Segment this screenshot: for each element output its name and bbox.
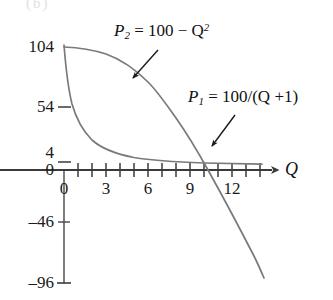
y-tick-label-0: 0 — [6, 161, 54, 178]
y-axis-ticks — [58, 107, 71, 162]
y-tick-label-104: 104 — [6, 38, 54, 55]
y-tick-label-54: 54 — [6, 98, 54, 115]
curve-label-p1-body: = 100/(Q +1) — [204, 87, 298, 106]
x-tick-label-12: 12 — [220, 180, 244, 197]
y-tick-label-neg96: –96 — [0, 274, 54, 291]
x-tick-label-0: 0 — [52, 180, 76, 197]
y-tick-label-4: 4 — [6, 144, 54, 161]
curve-label-p1-prefix: P — [188, 87, 198, 106]
x-tick-label-9: 9 — [178, 180, 202, 197]
x-tick-label-6: 6 — [136, 180, 160, 197]
leader-arrow-p2 — [133, 50, 158, 78]
curve-p2 — [64, 47, 264, 278]
curve-label-p2-body: = 100 − Q — [130, 21, 204, 40]
figure-container: (b) — [0, 0, 333, 300]
x-tick-label-3: 3 — [94, 180, 118, 197]
leader-arrow-p1 — [212, 115, 235, 146]
curve-label-p2-prefix: P — [114, 21, 124, 40]
y-tick-label-neg46: –46 — [0, 213, 54, 230]
x-axis-name: Q — [285, 160, 298, 178]
curve-label-p1: P1 = 100/(Q +1) — [188, 88, 298, 107]
curve-label-p2: P2 = 100 − Q2 — [114, 22, 209, 41]
curve-label-p2-sup: 2 — [204, 21, 210, 33]
